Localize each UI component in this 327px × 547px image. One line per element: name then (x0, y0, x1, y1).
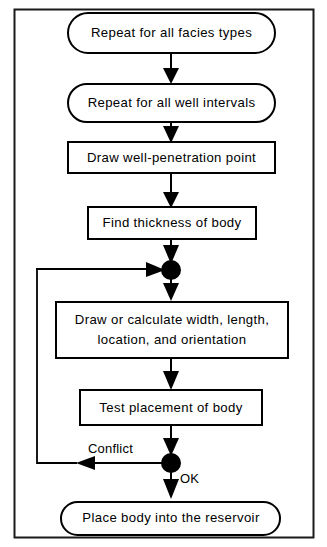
node-draw-or-calculate-dimensions: Draw or calculate width, length, locatio… (56, 302, 288, 358)
node-label: Place body into the reservoir (82, 510, 260, 525)
node-label: Draw well-penetration point (87, 150, 256, 165)
edge-n2-n3 (163, 122, 179, 143)
edge-n3-n4 (163, 172, 179, 208)
edge-n1-n2 (163, 53, 179, 84)
node-label: Find thickness of body (103, 215, 242, 230)
node-label: Repeat for all well intervals (88, 95, 256, 110)
loop-entry-junction (161, 260, 181, 280)
edge-n5-n6 (163, 357, 179, 390)
node-shape-rect (56, 302, 288, 358)
edge-label-ok: OK (180, 471, 199, 486)
node-draw-well-penetration-point: Draw well-penetration point (68, 142, 275, 173)
flowchart-canvas: Repeat for all facies types Repeat for a… (0, 0, 327, 547)
node-test-placement-of-body: Test placement of body (80, 390, 262, 425)
node-repeat-well-intervals: Repeat for all well intervals (68, 84, 275, 122)
node-label: Repeat for all facies types (91, 25, 252, 40)
node-label-line1: Draw or calculate width, length, (75, 312, 269, 327)
node-repeat-facies-types: Repeat for all facies types (68, 13, 275, 53)
flowchart-figure: Repeat for all facies types Repeat for a… (0, 0, 327, 547)
node-place-body-into-reservoir: Place body into the reservoir (61, 502, 280, 535)
decision-junction (161, 453, 181, 473)
edge-conflict-loopback (36, 262, 170, 470)
node-label: Test placement of body (99, 400, 242, 415)
edge-label-conflict: Conflict (88, 441, 133, 456)
edge-n6-junction2 (163, 425, 179, 456)
edge-junction2-n7-ok (163, 469, 179, 499)
node-find-thickness-of-body: Find thickness of body (88, 207, 256, 239)
node-label-line2: location, and orientation (98, 332, 247, 347)
